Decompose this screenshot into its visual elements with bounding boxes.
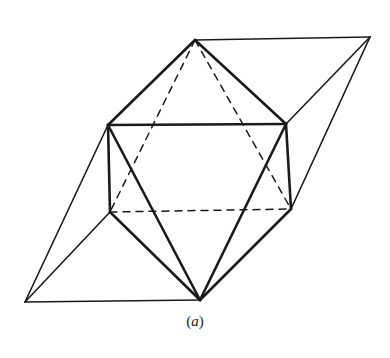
visible-edge-UL-LL — [108, 125, 110, 212]
visible-edge-UR-B — [200, 124, 286, 300]
hidden-edge-LL-LR — [110, 209, 291, 212]
frame-edge-L-UL — [25, 125, 108, 302]
visible-edge-T-UR — [195, 40, 286, 124]
figure-caption: (a) — [0, 313, 390, 330]
visible-edge-UL-UR — [108, 124, 286, 125]
frame-edge-R-UR — [286, 37, 370, 124]
visible-edges — [108, 40, 291, 300]
visible-edge-UL-B — [108, 125, 200, 300]
visible-edge-UR-LR — [286, 124, 291, 209]
visible-edge-LL-B — [110, 212, 200, 300]
frame-edges — [25, 37, 370, 302]
caption-label: a — [191, 313, 199, 329]
frame-edge-T-R — [195, 37, 370, 40]
visible-edge-T-UL — [108, 40, 195, 125]
caption-close: ) — [199, 313, 204, 329]
frame-edge-R-LR — [291, 37, 370, 209]
octahedron-diagram — [0, 0, 390, 358]
visible-edge-LR-B — [200, 209, 291, 300]
frame-edge-L-B — [25, 300, 200, 302]
frame-edge-L-LL — [25, 212, 110, 302]
